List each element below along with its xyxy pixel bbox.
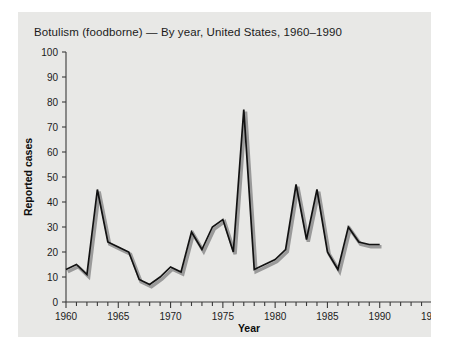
y-axis-title: Reported cases xyxy=(22,138,34,216)
x-tick-label: 1985 xyxy=(316,311,339,322)
y-tick-label: 50 xyxy=(47,172,59,183)
y-tick-label: 10 xyxy=(47,272,59,283)
y-tick-label: 100 xyxy=(41,47,58,58)
chart-figure: Botulism (foodborne) — By year, United S… xyxy=(18,12,431,337)
x-tick-labels: 19601965197019751980198519901995 xyxy=(55,311,431,322)
x-tick-label: 1975 xyxy=(212,311,235,322)
x-tick-label: 1995 xyxy=(421,311,431,322)
y-tick-label: 90 xyxy=(47,72,59,83)
x-tick-label: 1980 xyxy=(264,311,287,322)
y-tick-label: 30 xyxy=(47,222,59,233)
y-tick-label: 20 xyxy=(47,247,59,258)
x-tick-label: 1965 xyxy=(107,311,130,322)
y-tick-label: 80 xyxy=(47,97,59,108)
x-tick-label: 1960 xyxy=(55,311,78,322)
series-shadow-line xyxy=(68,112,382,287)
x-tick-label: 1990 xyxy=(369,311,392,322)
y-tick-label: 0 xyxy=(52,297,58,308)
plot-area: 0102030405060708090100 19601965197019751… xyxy=(18,12,431,337)
x-tick-marks-minor xyxy=(76,302,421,306)
y-tick-marks xyxy=(62,52,66,302)
x-tick-marks-major xyxy=(66,302,431,308)
y-tick-label: 70 xyxy=(47,122,59,133)
x-tick-label: 1970 xyxy=(159,311,182,322)
y-tick-label: 60 xyxy=(47,147,59,158)
y-tick-labels: 0102030405060708090100 xyxy=(41,47,58,308)
chart-svg: 0102030405060708090100 19601965197019751… xyxy=(18,12,431,337)
y-tick-label: 40 xyxy=(47,197,59,208)
x-axis-title: Year xyxy=(238,322,260,334)
